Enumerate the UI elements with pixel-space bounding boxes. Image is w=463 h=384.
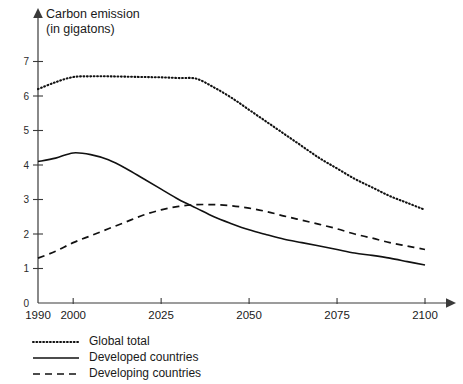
x-axis [38,298,456,308]
y-tick-label: 7 [23,56,29,67]
y-axis [33,8,43,303]
x-axis-arrowhead [446,298,456,308]
series-line-developed-countries [38,153,425,265]
legend-label: Developing countries [89,366,201,380]
x-tick-label: 2050 [236,309,262,321]
series-line-global-total [38,76,425,210]
chart-canvas: Carbon emission (in gigatons) 01234567 1… [0,0,463,384]
y-tick-label: 3 [23,194,29,205]
y-tick-label: 0 [23,298,29,309]
carbon-emission-chart: Carbon emission (in gigatons) 01234567 1… [0,0,463,384]
series-line-developing-countries [38,205,425,259]
series-group [38,76,425,265]
y-tick-label: 2 [23,229,29,240]
y-tick-label: 1 [23,263,29,274]
y-tick-label: 4 [23,160,29,171]
legend-label: Developed countries [89,350,198,364]
y-axis-ticks: 01234567 [23,56,43,309]
chart-title-line-1: Carbon emission [46,7,140,21]
x-tick-label: 2100 [412,309,438,321]
chart-title-group: Carbon emission (in gigatons) [46,7,140,36]
chart-legend: Global totalDeveloped countriesDevelopin… [33,334,201,380]
y-tick-label: 5 [23,125,29,136]
legend-label: Global total [89,334,150,348]
x-tick-label: 1990 [25,309,51,321]
x-tick-label: 2025 [148,309,174,321]
x-tick-label: 2075 [324,309,350,321]
x-tick-label: 2000 [60,309,86,321]
y-axis-arrowhead [33,8,43,18]
chart-title-line-2: (in gigatons) [46,22,115,36]
y-tick-label: 6 [23,91,29,102]
x-axis-ticks: 199020002025205020752100 [25,298,438,321]
